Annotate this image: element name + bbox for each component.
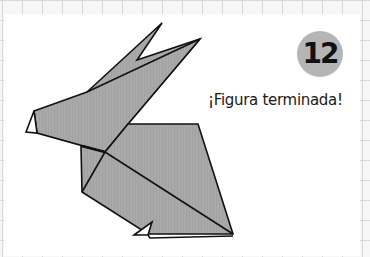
figure-caption: ¡Figura terminada! xyxy=(208,91,368,109)
step-number-badge: 12 xyxy=(297,31,343,77)
step-number: 12 xyxy=(303,40,338,68)
